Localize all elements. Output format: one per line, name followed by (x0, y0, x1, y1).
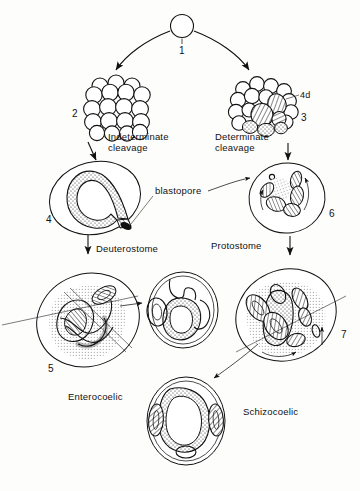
embryology-flow-diagram: 1 2 Indeterminate cleavage (0, 0, 360, 491)
stage-number-4: 4 (46, 214, 52, 225)
deuterostome-label: Deuterostome (96, 243, 158, 254)
cell-4d-label: 4d (300, 90, 310, 100)
indeterminate-cleavage-label-line1: Indeterminate (108, 131, 169, 142)
stage-number-5: 5 (48, 363, 54, 374)
schizocoel-cross-section (147, 377, 225, 465)
stage-number-7: 7 (341, 329, 347, 340)
schizocoelic-label: Schizocoelic (243, 406, 298, 417)
protostome-label: Protostome (211, 240, 262, 251)
stage-number-3: 3 (301, 112, 307, 123)
stage-number-1: 1 (179, 45, 185, 56)
blastopore-label: blastopore (155, 185, 201, 196)
indeterminate-cleavage-label-line2: cleavage (108, 142, 148, 153)
enterocoelic-label: Enterocoelic (68, 391, 123, 402)
stage-number-2: 2 (72, 108, 78, 119)
determinate-cleavage-label-line1: Determinate (215, 131, 269, 142)
determinate-cleavage-label-line2: cleavage (215, 142, 255, 153)
stage-number-6: 6 (329, 208, 335, 219)
